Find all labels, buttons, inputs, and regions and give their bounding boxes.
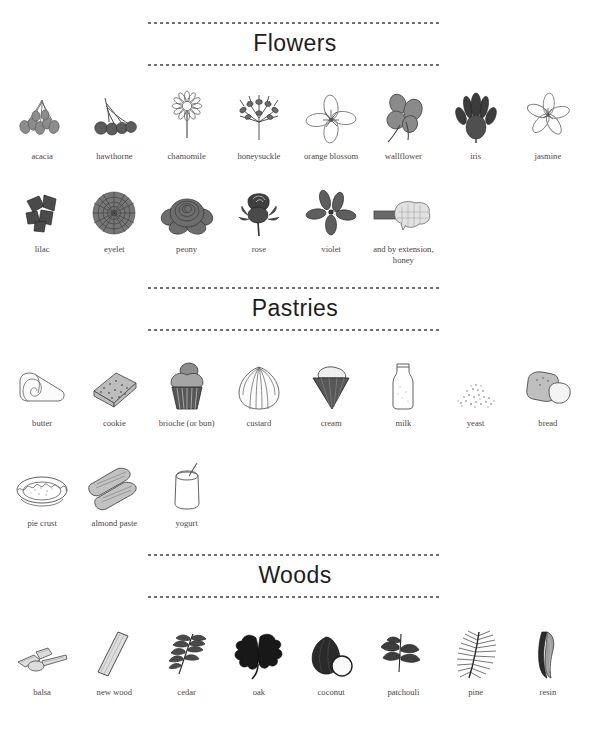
item-label: iris: [470, 151, 481, 161]
cookie-biscuit-icon: [81, 359, 147, 411]
grid-filler: [367, 459, 439, 528]
item-label: pine: [468, 687, 483, 697]
section-title-pastries: Pastries: [148, 289, 442, 329]
grid-filler: [440, 459, 512, 528]
butter-curl-icon: [9, 359, 75, 411]
item-label: yeast: [467, 418, 485, 428]
item-rose[interactable]: rose: [223, 185, 295, 265]
item-honeysuckle[interactable]: honeysuckle: [223, 92, 295, 161]
item-cream[interactable]: cream: [295, 359, 367, 428]
balsa-wood-icon: [9, 628, 75, 680]
grid-filler: [440, 185, 512, 265]
item-peony[interactable]: peony: [151, 185, 223, 265]
item-pie-crust[interactable]: pie crust: [6, 459, 78, 528]
item-label: eyelet: [104, 244, 125, 254]
item-label: cookie: [103, 418, 126, 428]
item-label: oak: [253, 687, 265, 697]
item-grid-woods-row1: balsa new wood: [6, 628, 584, 697]
item-label: coconut: [318, 687, 345, 697]
item-custard[interactable]: custard: [223, 359, 295, 428]
violet-flower-icon: [298, 185, 364, 237]
item-pine[interactable]: pine: [440, 628, 512, 697]
item-cookie[interactable]: cookie: [78, 359, 150, 428]
item-label: almond paste: [92, 518, 138, 528]
item-new-wood[interactable]: new wood: [78, 628, 150, 697]
item-eyelet[interactable]: eyelet: [78, 185, 150, 265]
spacer: [0, 331, 590, 359]
yogurt-jar-icon: [154, 459, 220, 511]
bread-slices-icon: [515, 359, 581, 411]
item-grid-pastries-row1: butter: [6, 359, 584, 428]
grid-filler: [512, 185, 584, 265]
item-wallflower[interactable]: wallflower: [367, 92, 439, 161]
item-label: custard: [246, 418, 271, 428]
almond-paste-icon: [81, 459, 147, 511]
item-label: patchouli: [387, 687, 419, 697]
item-chamomile[interactable]: chamomile: [151, 92, 223, 161]
item-lilac[interactable]: lilac: [6, 185, 78, 265]
rose-flower-icon: [226, 185, 292, 237]
pie-crust-icon: [9, 459, 75, 511]
wallflower-flower-icon: [370, 92, 436, 144]
item-acacia[interactable]: acacia: [6, 92, 78, 161]
item-hawthorne[interactable]: hawthorne: [78, 92, 150, 161]
item-bread[interactable]: bread: [512, 359, 584, 428]
item-oak[interactable]: oak: [223, 628, 295, 697]
item-orange-blossom[interactable]: orange blossom: [295, 92, 367, 161]
reference-page: Flowers: [0, 0, 590, 734]
item-resin[interactable]: resin: [512, 628, 584, 697]
orange-blossom-flower-icon: [298, 92, 364, 144]
item-honey[interactable]: and by extension, honey: [367, 185, 439, 265]
custard-swirl-icon: [226, 359, 292, 411]
spacer: [0, 598, 590, 628]
item-patchouli[interactable]: patchouli: [367, 628, 439, 697]
lilac-flower-icon: [9, 185, 75, 237]
item-grid-flowers-row1: acacia: [6, 92, 584, 161]
brioche-bun-icon: [154, 359, 220, 411]
item-label: orange blossom: [304, 151, 358, 161]
grid-filler: [512, 459, 584, 528]
item-label: pie crust: [27, 518, 56, 528]
grid-filler: [223, 459, 295, 528]
honeysuckle-flower-icon: [226, 92, 292, 144]
item-butter[interactable]: butter: [6, 359, 78, 428]
item-yeast[interactable]: yeast: [440, 359, 512, 428]
item-coconut[interactable]: coconut: [295, 628, 367, 697]
peony-flower-icon: [154, 185, 220, 237]
section-header-woods: Woods: [148, 554, 442, 598]
item-label: bread: [538, 418, 557, 428]
item-brioche[interactable]: brioche (or bun): [151, 359, 223, 428]
chamomile-flower-icon: [154, 92, 220, 144]
item-grid-pastries-row2: pie crust almond paste: [6, 459, 584, 528]
spacer: [0, 528, 590, 554]
item-jasmine[interactable]: jasmine: [512, 92, 584, 161]
section-title-flowers: Flowers: [148, 24, 442, 64]
item-balsa[interactable]: balsa: [6, 628, 78, 697]
item-label: peony: [176, 244, 197, 254]
pine-branch-icon: [443, 628, 509, 680]
item-label: lilac: [35, 244, 50, 254]
section-header-flowers: Flowers: [148, 22, 442, 66]
grid-filler: [295, 459, 367, 528]
item-label: butter: [32, 418, 52, 428]
cream-cone-icon: [298, 359, 364, 411]
item-label: acacia: [31, 151, 52, 161]
patchouli-leaf-icon: [370, 628, 436, 680]
item-yogurt[interactable]: yogurt: [151, 459, 223, 528]
item-label: hawthorne: [96, 151, 132, 161]
item-label: chamomile: [168, 151, 206, 161]
item-cedar[interactable]: cedar: [151, 628, 223, 697]
item-label: wallflower: [385, 151, 422, 161]
item-almond-paste[interactable]: almond paste: [78, 459, 150, 528]
item-label: rose: [252, 244, 266, 254]
item-label: brioche (or bun): [159, 418, 215, 428]
spacer: [0, 161, 590, 185]
item-iris[interactable]: iris: [440, 92, 512, 161]
yeast-granules-icon: [443, 359, 509, 411]
item-milk[interactable]: milk: [367, 359, 439, 428]
resin-icon: [515, 628, 581, 680]
acacia-flower-icon: [9, 92, 75, 144]
section-title-woods: Woods: [148, 556, 442, 596]
item-violet[interactable]: violet: [295, 185, 367, 265]
item-grid-flowers-row2: lilac eyelet: [6, 185, 584, 265]
